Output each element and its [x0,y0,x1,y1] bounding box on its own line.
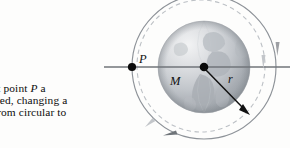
caption-line-1: 7 At point P a [0,82,128,94]
label-point-p: P [138,52,147,66]
caption-line1-italic: P [30,82,37,94]
figure-canvas: P M r 7 At point P a is fired, changing … [0,0,290,148]
caption-line1-text: At point [0,82,27,94]
label-radius-r: r [228,72,233,86]
figure-caption: 7 At point P a is fired, changing a bit … [0,82,128,119]
point-p-marker [128,63,136,71]
caption-line-3: bit from circular to [0,106,128,118]
caption-line-2: is fired, changing a [0,94,128,106]
caption-line1-suffix: a [40,82,45,94]
label-mass-m: M [169,74,181,88]
orbit-diagram: P M r [0,0,290,148]
